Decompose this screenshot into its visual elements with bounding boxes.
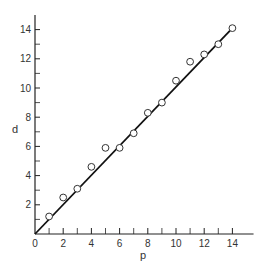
x-tick-label: 8 xyxy=(145,238,151,249)
y-tick-label: 10 xyxy=(20,83,32,94)
x-tick-label: 10 xyxy=(170,238,182,249)
x-tick-label: 2 xyxy=(60,238,66,249)
data-point xyxy=(159,99,166,106)
x-tick-label: 14 xyxy=(227,238,239,249)
data-point xyxy=(215,41,222,48)
data-point xyxy=(144,109,151,116)
data-point xyxy=(116,144,123,151)
data-point xyxy=(173,77,180,84)
x-tick-label: 4 xyxy=(89,238,95,249)
x-tick-label: 0 xyxy=(32,238,38,249)
y-tick-label: 12 xyxy=(20,53,32,64)
data-points xyxy=(46,25,236,220)
data-point xyxy=(187,58,194,65)
x-tick-label: 12 xyxy=(199,238,211,249)
data-point xyxy=(88,163,95,170)
y-tick-label: 6 xyxy=(25,141,31,152)
data-point xyxy=(74,185,81,192)
y-axis-label: d xyxy=(12,123,18,135)
x-axis-label: p xyxy=(140,249,146,261)
scatter-chart: 024681012142468101214 p d xyxy=(0,0,264,270)
y-tick-label: 2 xyxy=(25,199,31,210)
x-tick-label: 6 xyxy=(117,238,123,249)
data-point xyxy=(130,130,137,137)
data-point xyxy=(229,25,236,32)
y-tick-label: 4 xyxy=(25,170,31,181)
data-point xyxy=(60,194,67,201)
y-tick-label: 8 xyxy=(25,112,31,123)
axes xyxy=(35,15,254,234)
data-point xyxy=(102,144,109,151)
data-point xyxy=(46,213,53,220)
data-point xyxy=(201,51,208,58)
y-tick-label: 14 xyxy=(20,24,32,35)
